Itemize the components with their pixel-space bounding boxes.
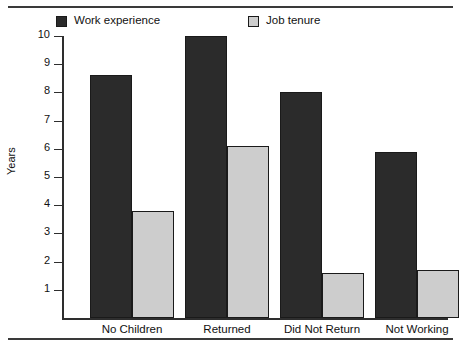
bar bbox=[227, 146, 269, 318]
y-axis-tick-label: 3 bbox=[44, 226, 50, 237]
bar bbox=[322, 273, 364, 318]
y-axis-tick-label: 6 bbox=[44, 142, 50, 153]
bottom-divider-rule bbox=[8, 338, 453, 340]
y-axis-tick: 1 bbox=[54, 290, 62, 291]
y-axis-tick-label: 8 bbox=[44, 85, 50, 96]
x-axis-category-label: No Children bbox=[90, 324, 174, 336]
bar-chart-figure: Work experience Job tenure Years 1098765… bbox=[0, 0, 461, 344]
y-axis-title: Years bbox=[6, 147, 17, 175]
bar bbox=[185, 36, 227, 318]
top-divider-rule bbox=[8, 6, 453, 8]
y-axis-tick-label: 7 bbox=[44, 114, 50, 125]
y-axis-tick-label: 1 bbox=[44, 283, 50, 294]
x-axis-category-label: Not Working bbox=[375, 324, 459, 336]
bar-group bbox=[280, 36, 364, 318]
bar bbox=[280, 92, 322, 318]
y-axis-tick: 7 bbox=[54, 121, 62, 122]
plot-area: 10987654321 bbox=[62, 36, 448, 320]
y-axis-tick: 5 bbox=[54, 177, 62, 178]
y-axis-tick: 10 bbox=[54, 36, 62, 37]
legend-swatch-work-experience bbox=[56, 16, 67, 27]
x-axis-category-label: Did Not Return bbox=[280, 324, 364, 336]
legend-item-job-tenure: Job tenure bbox=[248, 13, 320, 29]
bar bbox=[417, 270, 459, 318]
y-axis-tick: 8 bbox=[54, 92, 62, 93]
bar-group bbox=[185, 36, 269, 318]
legend-label-job-tenure: Job tenure bbox=[266, 15, 320, 27]
legend-item-work-experience: Work experience bbox=[56, 13, 160, 29]
y-axis-tick-label: 9 bbox=[44, 57, 50, 68]
y-axis-tick: 2 bbox=[54, 262, 62, 263]
bar-group bbox=[90, 36, 174, 318]
y-axis-tick: 4 bbox=[54, 205, 62, 206]
bar bbox=[375, 152, 417, 318]
legend-swatch-job-tenure bbox=[248, 16, 259, 27]
y-axis-tick-label: 5 bbox=[44, 170, 50, 181]
x-axis-category-label: Returned bbox=[185, 324, 269, 336]
bar bbox=[132, 211, 174, 318]
bar bbox=[90, 75, 132, 318]
y-axis-tick-label: 2 bbox=[44, 255, 50, 266]
x-axis-line bbox=[62, 318, 448, 320]
y-axis-line bbox=[62, 36, 64, 320]
y-axis-tick: 9 bbox=[54, 64, 62, 65]
y-axis-tick: 3 bbox=[54, 233, 62, 234]
chart-legend: Work experience Job tenure bbox=[0, 13, 461, 29]
y-axis-tick-label: 4 bbox=[44, 198, 50, 209]
legend-label-work-experience: Work experience bbox=[74, 15, 160, 27]
y-axis-tick-label: 10 bbox=[38, 29, 50, 40]
bar-group bbox=[375, 36, 459, 318]
y-axis-tick: 6 bbox=[54, 149, 62, 150]
